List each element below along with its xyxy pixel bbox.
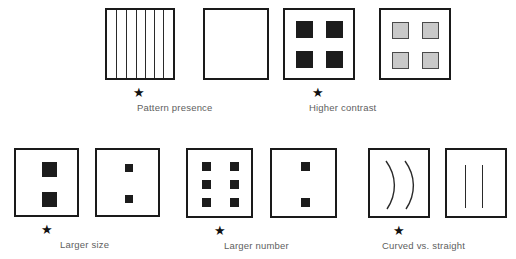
figure-row-bottom: ★ Larger size ★ Larger number (0, 148, 516, 256)
dark-squares-stimulus (283, 8, 355, 80)
count-square-element (230, 180, 239, 189)
large-square-element (42, 192, 57, 207)
comparison-caption: Larger number (224, 240, 289, 251)
preference-star-icon: ★ (41, 223, 53, 236)
stimulus-comparison-figure: ★ Pattern presence ★ Higher contrast (0, 0, 516, 259)
stripe-line (154, 10, 155, 78)
count-square-element (202, 180, 211, 189)
stripe-line (116, 10, 117, 78)
gray-square-element (422, 22, 439, 39)
stripe-line (136, 10, 137, 78)
gray-square-element (392, 22, 409, 39)
count-square-element (230, 162, 239, 171)
dark-square-element (296, 51, 313, 68)
count-square-element (301, 162, 310, 171)
gray-squares-stimulus (379, 8, 451, 80)
stripe-line (145, 10, 146, 78)
preference-star-icon: ★ (393, 224, 405, 237)
count-square-element (202, 162, 211, 171)
stripe-line (163, 10, 164, 78)
large-square-element (42, 162, 57, 177)
count-square-element (202, 198, 211, 207)
straight-line-element (465, 165, 466, 208)
stripe-line (126, 10, 127, 78)
blank-square-stimulus (203, 8, 269, 80)
preference-star-icon: ★ (214, 224, 226, 237)
comparison-caption: Higher contrast (309, 102, 376, 113)
small-squares-stimulus (95, 148, 160, 217)
comparison-caption: Larger size (60, 239, 109, 250)
dark-square-element (326, 21, 343, 38)
gray-square-element (392, 52, 409, 69)
preference-star-icon: ★ (312, 86, 324, 99)
dark-square-element (296, 21, 313, 38)
count-square-element (301, 198, 310, 207)
small-square-element (125, 195, 133, 203)
comparison-caption: Curved vs. straight (382, 240, 465, 251)
large-squares-stimulus (14, 148, 79, 217)
comparison-caption: Pattern presence (137, 102, 213, 113)
straight-lines-stimulus (445, 148, 507, 218)
two-squares-stimulus (270, 148, 337, 218)
striped-square-stimulus (105, 8, 175, 80)
six-squares-stimulus (186, 148, 253, 218)
figure-row-top: ★ Pattern presence ★ Higher contrast (0, 8, 516, 120)
count-square-element (230, 198, 239, 207)
curved-line-element (370, 150, 432, 220)
preference-star-icon: ★ (133, 86, 145, 99)
straight-line-element (482, 165, 483, 208)
gray-square-element (422, 52, 439, 69)
curved-lines-stimulus (368, 148, 430, 218)
small-square-element (125, 164, 133, 172)
dark-square-element (326, 51, 343, 68)
